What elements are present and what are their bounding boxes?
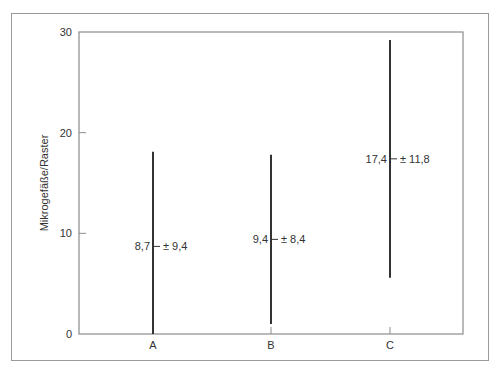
mean-label: 9,4: [253, 233, 268, 245]
error-bar-chart: 0102030 ABC 8,7± 9,49,4± 8,417,4± 11,8 M…: [0, 0, 502, 377]
sd-label: ± 9,4: [163, 240, 187, 252]
mean-label: 17,4: [366, 153, 387, 165]
error-bar-b: 9,4± 8,4: [253, 155, 306, 324]
x-tick-label: C: [386, 339, 394, 351]
sd-label: ± 8,4: [281, 233, 305, 245]
x-tick-label: A: [149, 339, 157, 351]
x-axis-ticks: ABC: [149, 327, 394, 351]
y-axis-label: Mikrogefäße/Raster: [38, 134, 50, 231]
y-tick-label: 10: [60, 227, 72, 239]
y-tick-label: 20: [60, 127, 72, 139]
y-axis-ticks: 0102030: [60, 26, 86, 340]
y-tick-label: 30: [60, 26, 72, 38]
error-bars: 8,7± 9,49,4± 8,417,4± 11,8: [135, 40, 430, 334]
x-tick-label: B: [267, 339, 274, 351]
mean-label: 8,7: [135, 240, 150, 252]
sd-label: ± 11,8: [400, 153, 430, 165]
error-bar-a: 8,7± 9,4: [135, 152, 188, 334]
error-bar-c: 17,4± 11,8: [366, 40, 430, 278]
y-tick-label: 0: [66, 328, 72, 340]
